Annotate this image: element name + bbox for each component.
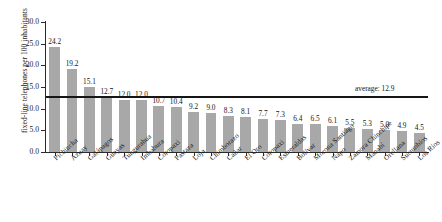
y-axis-tick bbox=[41, 152, 46, 153]
average-line-label: average: 12.9 bbox=[355, 85, 394, 92]
bar-value-label: 4.5 bbox=[408, 124, 430, 131]
y-axis-tick-label: 5.0 bbox=[0, 126, 39, 134]
y-axis-tick-label: 0.0 bbox=[0, 148, 39, 156]
bar bbox=[206, 113, 217, 152]
average-reference-line bbox=[46, 96, 428, 98]
bar bbox=[240, 117, 251, 152]
bar-value-label: 24.2 bbox=[44, 38, 66, 45]
bar-value-label: 15.1 bbox=[78, 78, 100, 85]
y-axis-tick-label: 10.0 bbox=[0, 105, 39, 113]
y-axis-tick-label: 25.0 bbox=[0, 40, 39, 48]
y-axis-tick-label: 15.0 bbox=[0, 83, 39, 91]
bar bbox=[49, 47, 60, 152]
y-axis-tick-label: 20.0 bbox=[0, 61, 39, 69]
y-axis-tick-label: 30.0 bbox=[0, 18, 39, 26]
bar-value-label: 19.2 bbox=[61, 60, 83, 67]
